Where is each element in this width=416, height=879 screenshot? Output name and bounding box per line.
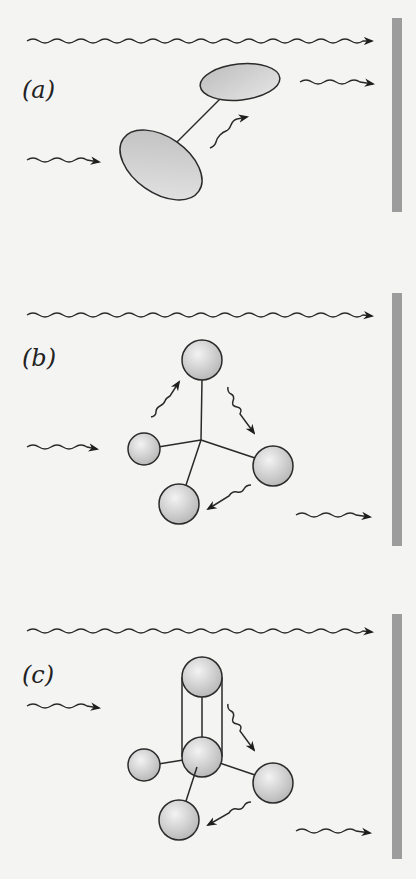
- energy-transfer-arrow: [208, 485, 251, 509]
- atom-left: [128, 749, 160, 781]
- wave-arrow-scattered: [296, 829, 370, 833]
- atom-right: [253, 446, 293, 486]
- energy-transfer-arrow: [228, 704, 254, 750]
- detector-bar: [392, 293, 402, 546]
- bond: [186, 440, 201, 485]
- bond: [201, 440, 255, 458]
- atom-top: [182, 340, 222, 380]
- panel-label: (b): [22, 344, 56, 372]
- wave-arrow-transmitted: [27, 39, 372, 43]
- wave-arrow-incident: [27, 704, 99, 708]
- wave-arrow-incident: [27, 158, 99, 162]
- wave-arrow-transmitted: [27, 313, 372, 317]
- atom-top: [182, 657, 222, 697]
- panel-b: (b): [22, 293, 402, 546]
- panel-label: (a): [22, 76, 55, 104]
- emission-arrow: [210, 117, 247, 148]
- energy-transfer-arrow: [208, 802, 251, 825]
- atom-left: [128, 433, 160, 465]
- wave-arrow-transmitted: [27, 629, 372, 633]
- energy-transfer-arrow: [228, 387, 254, 433]
- atom-right: [253, 763, 293, 803]
- energy-transfer-arrow: [151, 382, 179, 417]
- wave-arrow-scattered: [296, 513, 370, 517]
- scattering-diagram: (a) (b) (c): [0, 0, 416, 879]
- detector-bar: [392, 18, 402, 212]
- panel-label: (c): [22, 661, 54, 689]
- molecule-ellipsoid-small: [198, 60, 281, 104]
- panel-a: (a): [22, 18, 402, 214]
- atom-bottom: [159, 800, 199, 840]
- bond: [201, 380, 202, 440]
- atom-center: [182, 737, 222, 777]
- wave-arrow-incident: [27, 445, 97, 449]
- panel-c: (c): [22, 614, 402, 859]
- atom-bottom: [159, 484, 199, 524]
- detector-bar: [392, 614, 402, 859]
- molecule-ellipsoid-large: [107, 116, 214, 215]
- wave-arrow-scattered: [300, 80, 373, 84]
